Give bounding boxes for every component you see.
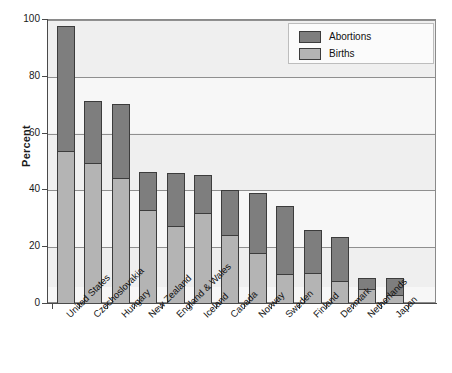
bar-segment-abortions [84,101,102,164]
y-axis-tick [42,246,48,247]
bar-segment-abortions [167,173,185,227]
plot-band [48,133,435,190]
bar-segment-abortions [276,206,294,275]
bar-czechoslovakia [84,101,102,304]
y-axis-tick [42,189,48,190]
gridline [48,190,435,191]
x-axis-tick [52,304,53,309]
y-axis-tick-label: 0 [0,297,48,308]
legend-item-abortions: Abortions [299,29,427,45]
bar-segment-abortions [304,230,322,274]
gridline [48,134,435,135]
chart-container: Percent 020406080100 United StatesCzecho… [0,0,452,373]
bar-segment-abortions [331,237,349,282]
bar-segment-abortions [57,26,75,152]
y-axis-tick-label: 80 [0,70,48,81]
bar-segment-abortions [112,104,130,179]
legend-item-births: Births [299,46,427,62]
legend-swatch-births [299,48,321,60]
gridline [48,247,435,248]
bar-norway [249,193,267,304]
legend: Abortions Births [288,23,434,64]
y-axis-tick [42,133,48,134]
bar-segment-births [57,151,75,304]
y-axis-tick-label: 20 [0,240,48,251]
bar-united-states [57,26,75,304]
legend-label-abortions: Abortions [329,32,371,42]
y-axis-title: Percent [20,101,32,191]
bar-segment-abortions [139,172,157,211]
bar-new-zealand [139,172,157,304]
legend-swatch-abortions [299,31,321,43]
y-axis-tick [42,19,48,20]
bar-canada [221,190,239,304]
y-axis-tick [42,303,48,304]
y-axis-tick-label: 40 [0,183,48,194]
gridline [48,77,435,78]
legend-label-births: Births [329,49,355,59]
y-axis-tick-label: 100 [0,13,48,24]
bar-segment-abortions [194,175,212,214]
y-axis-tick [42,76,48,77]
bar-segment-abortions [249,193,267,254]
y-axis-line [47,19,48,304]
y-axis-tick-label: 60 [0,127,48,138]
gridline [48,20,435,21]
bar-segment-abortions [221,190,239,236]
